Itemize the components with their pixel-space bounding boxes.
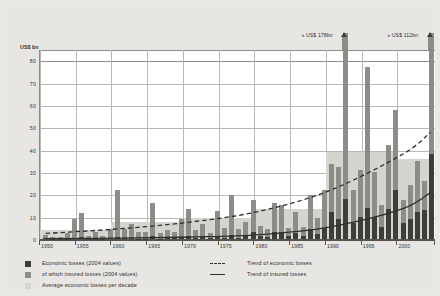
- bar-insured-1992: [343, 199, 348, 239]
- legend-label-1: of which insured losses (2004 values): [42, 269, 137, 279]
- bar-insured-1968: [172, 238, 177, 239]
- x-tick-1995: [361, 240, 362, 245]
- bar-insured-1950: [43, 238, 48, 239]
- bar-insured-1984: [286, 236, 291, 239]
- legend-line-dashed: [210, 263, 225, 264]
- bar-insured-1965: [150, 236, 155, 239]
- x-tick-label-1960: 1960: [112, 243, 124, 249]
- overflow-shaft-2004: [428, 37, 433, 50]
- y-tick-label-50: 50: [30, 125, 36, 131]
- legend-swatch-0: [25, 261, 31, 267]
- gridline-x-1960: [111, 50, 112, 239]
- bar-economic-1974: [215, 211, 220, 239]
- bar-insured-1986: [301, 236, 306, 239]
- y-tick-label-20: 20: [30, 192, 36, 198]
- plot-area: [39, 50, 435, 240]
- chart-figure: US$ bn 01020304050607080 195019551960196…: [0, 0, 440, 296]
- x-tick-1980: [253, 240, 254, 245]
- bar-insured-1988: [315, 234, 320, 239]
- bar-insured-1995: [365, 208, 370, 239]
- x-tick-label-1975: 1975: [220, 243, 232, 249]
- bar-insured-1962: [129, 238, 134, 239]
- y-tick-label-80: 80: [30, 58, 36, 64]
- x-tick-1970: [182, 240, 183, 245]
- x-tick-label-2000: 2000: [398, 243, 410, 249]
- x-tick-label-1965: 1965: [148, 243, 160, 249]
- bar-economic-1960: [115, 190, 120, 239]
- bar-insured-1972: [200, 237, 205, 239]
- x-tick-1955: [75, 240, 76, 245]
- gridline-y-80: [40, 61, 435, 62]
- x-tick-2000: [396, 240, 397, 245]
- legend-label-0: Economic losses (2004 values): [42, 258, 121, 268]
- y-tick-label-40: 40: [30, 148, 36, 154]
- bar-insured-1989: [322, 228, 327, 239]
- bar-insured-1996: [372, 217, 377, 239]
- y-axis-unit-label: US$ bn: [20, 44, 39, 50]
- x-tick-label-1985: 1985: [291, 243, 303, 249]
- gridline-x-1955: [76, 50, 77, 239]
- bar-economic-1955: [79, 213, 84, 239]
- bar-insured-1980: [258, 236, 263, 239]
- bar-economic-1969: [179, 219, 184, 239]
- bar-insured-1983: [279, 232, 284, 239]
- bar-insured-1982: [272, 232, 277, 239]
- bar-insured-1954: [72, 238, 77, 239]
- x-tick-1985: [289, 240, 290, 245]
- callout-1992: » US$ 178bn: [301, 32, 332, 38]
- y-tick-label-10: 10: [30, 215, 36, 221]
- gridline-x-1950: [40, 50, 41, 239]
- x-tick-1960: [110, 240, 111, 245]
- bar-economic-1954: [72, 219, 77, 239]
- bar-insured-2003: [422, 210, 427, 239]
- overflow-shaft-1992: [342, 37, 347, 50]
- y-tick-label-60: 60: [30, 103, 36, 109]
- bar-insured-1974: [215, 237, 220, 239]
- bar-insured-1955: [79, 237, 84, 239]
- bar-insured-1991: [336, 219, 341, 239]
- bar-insured-1976: [229, 235, 234, 239]
- y-tick-label-0: 0: [33, 237, 36, 243]
- bar-insured-1969: [179, 237, 184, 239]
- x-tick-label-1955: 1955: [77, 243, 89, 249]
- bar-insured-1973: [208, 238, 213, 239]
- chart-panel: US$ bn 01020304050607080 195019551960196…: [6, 6, 434, 290]
- callout-2004: » US$ 112bn: [387, 32, 418, 38]
- bar-insured-1979: [251, 232, 256, 239]
- bar-insured-1977: [236, 238, 241, 239]
- bar-insured-1999: [393, 190, 398, 239]
- gridline-x-1965: [147, 50, 148, 239]
- legend-trend-label-0: Trend of economic losses: [247, 258, 312, 268]
- bar-insured-2001: [408, 219, 413, 239]
- x-tick-label-1990: 1990: [327, 243, 339, 249]
- bar-insured-1987: [308, 229, 313, 239]
- legend-label-2: Average economic losses per decade: [42, 280, 137, 290]
- bar-insured-1981: [265, 237, 270, 239]
- bar-economic-1965: [150, 203, 155, 239]
- bar-economic-1976: [229, 195, 234, 239]
- bar-economic-1970: [186, 209, 191, 239]
- x-tick-label-1950: 1950: [41, 243, 53, 249]
- bar-insured-1971: [193, 238, 198, 239]
- bar-insured-1997: [379, 227, 384, 239]
- plot-top-rule: [40, 50, 435, 51]
- x-tick-1950: [39, 240, 40, 245]
- bar-insured-1970: [186, 236, 191, 239]
- x-tick-label-1970: 1970: [184, 243, 196, 249]
- bar-insured-2004: [429, 154, 434, 239]
- bar-economic-1962: [129, 224, 134, 239]
- gridline-y-50: [40, 128, 435, 129]
- gridline-y-70: [40, 84, 435, 85]
- bar-insured-1990: [329, 212, 334, 239]
- x-tick-end: [434, 240, 435, 245]
- chart-legend: Economic losses (2004 values)of which in…: [25, 258, 425, 294]
- legend-swatch-1: [25, 272, 31, 278]
- bar-insured-1960: [115, 237, 120, 239]
- legend-swatch-2: [25, 283, 31, 289]
- x-axis: 1950195519601965197019751980198519901995…: [39, 240, 435, 252]
- bar-insured-1998: [386, 209, 391, 239]
- bar-insured-1961: [122, 238, 127, 239]
- bar-insured-2002: [415, 212, 420, 239]
- bar-insured-1993: [351, 223, 356, 239]
- x-tick-label-1995: 1995: [363, 243, 375, 249]
